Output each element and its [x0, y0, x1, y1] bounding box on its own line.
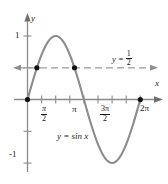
fraction-pi-over-2: π 2: [41, 105, 47, 123]
fraction-denominator: 2: [100, 115, 110, 123]
sine-function-graph-figure: y x 1 -1 π 2 π 3π 2 2π y = sin x y = 1 2: [0, 0, 168, 184]
dashed-line-right-arrow-icon: [150, 65, 158, 71]
data-point-origin: [25, 97, 30, 102]
dashed-line-left-arrow-icon: [13, 65, 21, 71]
chart-plot-area: [0, 0, 168, 184]
sine-curve-annotation: y = sin x: [57, 132, 88, 141]
x-axis-label: x: [155, 79, 159, 88]
fraction-one-half: 1 2: [126, 50, 132, 68]
y-tick-label-one: 1: [15, 31, 20, 40]
half-line-annotation-prefix: y =: [112, 54, 124, 64]
y-axis-label: y: [31, 14, 35, 23]
y-axis-arrow-icon: [24, 13, 30, 22]
y-tick-label-negative-one: -1: [9, 150, 17, 159]
x-tick-label-pi: π: [72, 105, 77, 114]
fraction-3pi-over-2: 3π 2: [100, 105, 110, 123]
half-line-annotation: y = 1 2: [112, 50, 132, 68]
x-tick-label-3pi-over-2: 3π 2: [100, 105, 110, 123]
x-axis-arrow-icon: [154, 96, 163, 103]
data-point-intersection-left: [34, 65, 39, 70]
x-tick-label-2pi: 2π: [140, 104, 149, 113]
data-point-intersection-right: [72, 65, 77, 70]
data-point-two-pi: [138, 97, 143, 102]
fraction-denominator: 2: [41, 115, 47, 123]
x-tick-label-pi-over-2: π 2: [41, 105, 47, 123]
fraction-denominator: 2: [126, 59, 132, 67]
